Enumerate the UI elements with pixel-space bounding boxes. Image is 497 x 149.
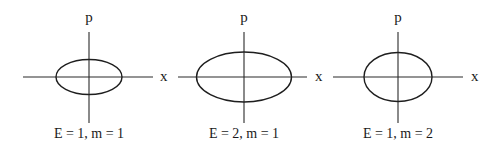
panel-caption: E = 2, m = 1 <box>209 126 279 141</box>
x-axis-label: x <box>315 68 323 84</box>
panel-e2-m1: p x E = 2, m = 1 <box>178 9 323 141</box>
p-axis-label: p <box>85 9 93 25</box>
p-axis-label: p <box>240 9 248 25</box>
panel-caption: E = 1, m = 2 <box>363 126 433 141</box>
x-axis-label: x <box>160 68 168 84</box>
phase-space-diagram: p x E = 1, m = 1 p x E = 2, m = 1 p x E … <box>0 0 497 149</box>
p-axis-label: p <box>394 9 402 25</box>
panel-caption: E = 1, m = 1 <box>54 126 124 141</box>
panel-e1-m2: p x E = 1, m = 2 <box>333 9 479 141</box>
panel-e1-m1: p x E = 1, m = 1 <box>23 9 168 141</box>
x-axis-label: x <box>471 68 479 84</box>
